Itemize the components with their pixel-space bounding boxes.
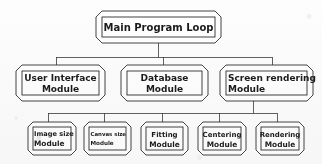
- node-canvas-size-module[interactable]: Canvas size Module: [84, 122, 131, 155]
- node-label-line1: Main Program Loop: [104, 22, 214, 33]
- node-label-line1: Screen rendering: [228, 73, 316, 83]
- node-label-line1: Rendering: [260, 131, 301, 139]
- node-screen-rendering-module[interactable]: Screen rendering Module: [220, 65, 316, 101]
- node-label-line2: Module: [42, 84, 79, 94]
- node-label-line1: User Interface: [24, 73, 96, 83]
- connector-group-level1-level2: [56, 43, 272, 65]
- node-label-line2: Module: [207, 140, 238, 149]
- node-label-line2: Module: [91, 140, 114, 146]
- node-label-line2: Module: [34, 139, 65, 148]
- node-image-size-module[interactable]: Image size Module: [28, 122, 76, 155]
- node-centering-module[interactable]: Centering Module: [198, 122, 246, 155]
- node-label-line1: Image size: [34, 130, 74, 138]
- node-main-program-loop[interactable]: Main Program Loop: [96, 11, 221, 43]
- node-fitting-module[interactable]: Fitting Module: [141, 122, 188, 155]
- node-label-line1: Centering: [203, 131, 242, 139]
- node-label-line1: Canvas size: [91, 131, 127, 137]
- program-architecture-diagram: Main Program Loop User Interface Module …: [0, 0, 322, 164]
- node-user-interface-module[interactable]: User Interface Module: [16, 65, 105, 101]
- node-rendering-module[interactable]: Rendering Module: [256, 122, 304, 155]
- node-label-line2: Module: [228, 84, 265, 94]
- node-label-line1: Database: [141, 73, 189, 83]
- node-label-line2: Module: [265, 140, 296, 149]
- node-label-line1: Fitting: [151, 131, 177, 139]
- node-label-line2: Module: [146, 84, 183, 94]
- node-label-line2: Module: [149, 140, 180, 149]
- node-database-module[interactable]: Database Module: [121, 65, 208, 101]
- connector-group-level2-level3: [48, 101, 277, 122]
